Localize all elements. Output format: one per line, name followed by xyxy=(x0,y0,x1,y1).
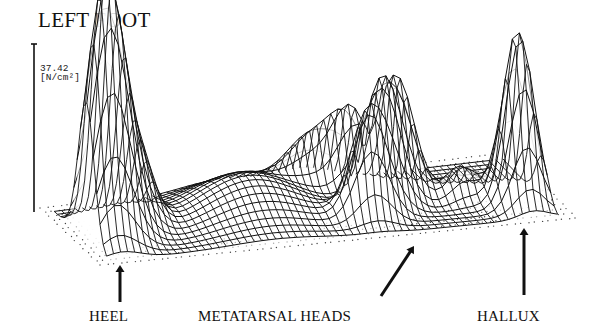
label-metatarsal-heads: METATARSAL HEADS xyxy=(198,308,351,325)
arrowhead-icon xyxy=(520,228,529,235)
pressure-surface-plot xyxy=(0,0,595,330)
label-heel: HEEL xyxy=(89,308,128,325)
arrow-metatarsal-heads xyxy=(381,251,411,296)
arrowhead-icon xyxy=(116,265,125,272)
label-hallux: HALLUX xyxy=(477,308,540,325)
